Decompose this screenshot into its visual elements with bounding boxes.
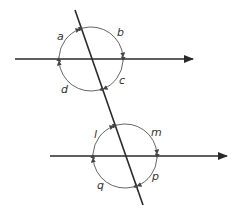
angle-diagram: a b c d l m p q [0,0,241,215]
angle-label-m: m [151,126,162,139]
transversal-line [75,10,143,205]
angle-label-a: a [57,30,64,43]
angle-label-d: d [61,83,69,96]
angle-label-q: q [97,179,104,192]
angle-label-l: l [94,128,97,141]
angle-label-p: p [151,170,159,183]
angle-label-b: b [117,26,124,39]
angle-label-c: c [119,74,125,87]
